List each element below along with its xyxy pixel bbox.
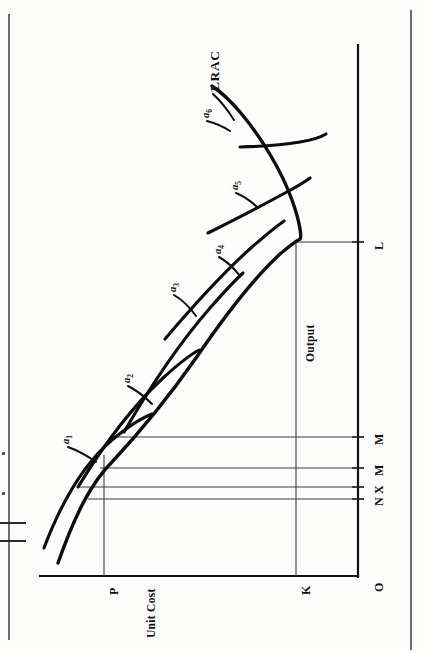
- curve-label-a5-base: a: [229, 185, 240, 190]
- lrac-figure: Output Unit Cost O N X M M L K P a1 a2 a…: [0, 0, 430, 653]
- curve-label-a5: a5: [229, 181, 243, 190]
- curve-label-a6-base: a: [200, 113, 211, 118]
- leader-a6: [207, 121, 230, 131]
- curve-label-a1-base: a: [60, 439, 71, 444]
- curve-label-a3-sub: 3: [172, 283, 181, 287]
- axis-label-N: N: [372, 497, 387, 506]
- curve-label-a3: a3: [167, 283, 181, 292]
- sac-curve-a6: [240, 134, 326, 147]
- curve-label-a5-sub: 5: [234, 181, 243, 185]
- axis-label-M1: M: [372, 465, 387, 476]
- curve-label-a2-base: a: [121, 378, 132, 383]
- unit-cost-axis-title: Unit Cost: [145, 588, 157, 638]
- scanned-page: Output Unit Cost O N X M M L K P a1 a2 a…: [0, 0, 430, 653]
- output-axis-title: Output: [304, 324, 316, 362]
- sac-curve-a3: [124, 273, 243, 432]
- axis-label-O: O: [372, 583, 387, 592]
- axis-label-X: X: [372, 485, 387, 494]
- sac-curve-a4: [165, 221, 284, 339]
- curve-label-a2: a2: [121, 374, 135, 383]
- axis-label-P: P: [107, 588, 122, 595]
- sac-curve-a2: [78, 350, 199, 487]
- axis-label-L: L: [372, 242, 387, 250]
- label-leader-lines: [68, 94, 258, 462]
- axis-label-M2: M: [372, 434, 387, 445]
- curve-label-a6-sub: 6: [205, 109, 214, 113]
- curve-label-a6: a6: [200, 109, 214, 118]
- leader-lrac: [213, 94, 234, 120]
- leader-a5: [236, 193, 258, 208]
- curve-label-a3-base: a: [167, 287, 178, 292]
- lrac-curve-label: LRAC: [207, 50, 223, 91]
- lrac-diagram-svg: [0, 0, 430, 653]
- guide-lines: [78, 242, 358, 576]
- curve-label-a2-sub: 2: [126, 374, 135, 378]
- curve-label-a4-sub: 4: [217, 245, 226, 249]
- curve-label-a4-base: a: [212, 249, 223, 254]
- short-run-cost-curves: [44, 134, 326, 548]
- curve-label-a1: a1: [60, 435, 74, 444]
- curve-label-a4: a4: [212, 245, 226, 254]
- axis-label-K: K: [299, 586, 314, 595]
- leader-a1: [68, 447, 96, 462]
- curve-label-a1-sub: 1: [65, 435, 74, 439]
